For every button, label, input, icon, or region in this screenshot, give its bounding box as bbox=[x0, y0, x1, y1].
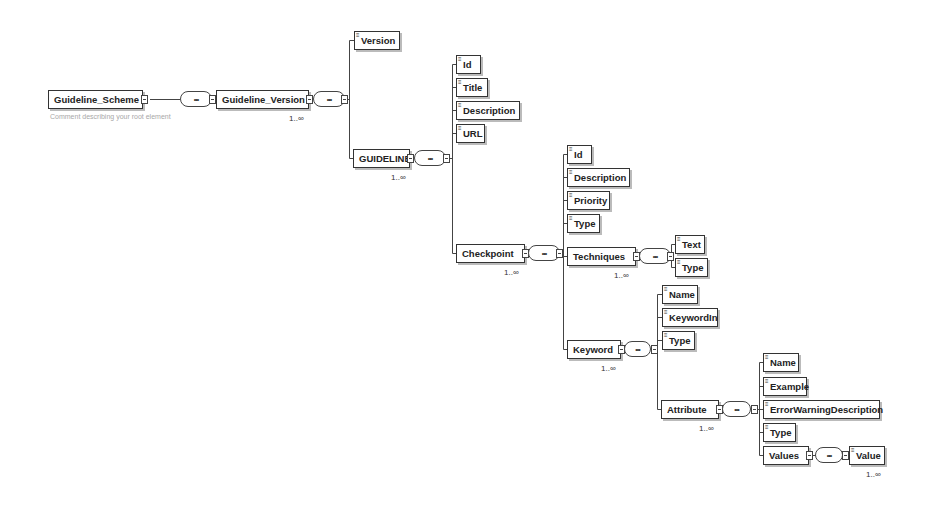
leaf-element-icon: ≡ bbox=[569, 169, 573, 175]
leaf-element-icon: ≡ bbox=[356, 32, 360, 38]
leaf-element-icon: ≡ bbox=[765, 424, 769, 430]
node-label: Title bbox=[463, 82, 482, 93]
leaf-element-icon: ≡ bbox=[458, 56, 462, 62]
node-label: Value bbox=[856, 450, 881, 461]
collapse-toggle-icon[interactable] bbox=[806, 451, 813, 460]
leaf-element-icon: ≡ bbox=[458, 79, 462, 85]
element-guideline-url[interactable]: ≡ URL bbox=[456, 124, 485, 143]
element-guideline[interactable]: GUIDELINE bbox=[353, 149, 410, 168]
element-keyword-keywordin[interactable]: ≡ KeywordIn bbox=[662, 308, 718, 327]
node-label: GUIDELINE bbox=[359, 153, 411, 164]
sequence-compositor-icon: ••• bbox=[722, 401, 751, 417]
node-label: Guideline_Version bbox=[222, 94, 305, 105]
cardinality-label: 1..∞ bbox=[699, 424, 714, 433]
element-checkpoint[interactable]: Checkpoint bbox=[456, 244, 525, 263]
collapse-toggle-icon[interactable] bbox=[667, 252, 674, 261]
leaf-element-icon: ≡ bbox=[664, 309, 668, 315]
leaf-element-icon: ≡ bbox=[765, 401, 769, 407]
node-label: Type bbox=[770, 427, 791, 438]
element-techniques[interactable]: Techniques bbox=[567, 247, 636, 266]
sequence-compositor-icon: ••• bbox=[624, 341, 651, 357]
element-guideline-title[interactable]: ≡ Title bbox=[456, 78, 488, 97]
node-label: Type bbox=[682, 262, 703, 273]
node-label: KeywordIn bbox=[669, 312, 718, 323]
sequence-compositor-icon: ••• bbox=[180, 91, 212, 107]
node-label: Values bbox=[769, 450, 799, 461]
node-label: Description bbox=[574, 172, 626, 183]
element-keyword[interactable]: Keyword bbox=[567, 340, 621, 359]
collapse-toggle-icon[interactable] bbox=[443, 154, 450, 163]
node-label: Keyword bbox=[573, 344, 613, 355]
element-value[interactable]: ≡ Value bbox=[849, 446, 885, 465]
node-label: Guideline_Scheme bbox=[54, 94, 139, 105]
element-attribute-type[interactable]: ≡ Type bbox=[763, 423, 796, 442]
element-version[interactable]: ≡ Version bbox=[354, 31, 400, 50]
element-values[interactable]: Values bbox=[763, 446, 809, 465]
node-label: Checkpoint bbox=[462, 248, 514, 259]
collapse-toggle-icon[interactable] bbox=[651, 345, 658, 354]
node-label: Text bbox=[682, 239, 701, 250]
element-guideline-id[interactable]: ≡ Id bbox=[456, 55, 481, 74]
leaf-element-icon: ≡ bbox=[664, 286, 668, 292]
leaf-element-icon: ≡ bbox=[569, 146, 573, 152]
leaf-element-icon: ≡ bbox=[569, 192, 573, 198]
element-attribute-example[interactable]: ≡ Example bbox=[763, 377, 807, 396]
element-checkpoint-id[interactable]: ≡ Id bbox=[567, 145, 592, 164]
collapse-toggle-icon[interactable] bbox=[306, 95, 313, 104]
element-keyword-name[interactable]: ≡ Name bbox=[662, 285, 698, 304]
node-label: Version bbox=[361, 35, 395, 46]
cardinality-label: 1..∞ bbox=[614, 271, 629, 280]
element-techniques-type[interactable]: ≡ Type bbox=[675, 258, 708, 277]
element-attribute-name[interactable]: ≡ Name bbox=[763, 353, 799, 372]
node-label: ErrorWarningDescription bbox=[770, 404, 883, 415]
leaf-element-icon: ≡ bbox=[569, 215, 573, 221]
element-techniques-text[interactable]: ≡ Text bbox=[675, 235, 705, 254]
collapse-toggle-icon[interactable] bbox=[407, 154, 414, 163]
element-guideline-version[interactable]: Guideline_Version bbox=[216, 90, 309, 109]
element-attribute-errorwarningdescription[interactable]: ≡ ErrorWarningDescription bbox=[763, 400, 880, 419]
node-label: Priority bbox=[574, 195, 607, 206]
collapse-toggle-icon[interactable] bbox=[556, 249, 563, 258]
node-label: Description bbox=[463, 105, 515, 116]
node-label: Name bbox=[669, 289, 695, 300]
leaf-element-icon: ≡ bbox=[677, 236, 681, 242]
cardinality-label: 1..∞ bbox=[289, 114, 304, 123]
leaf-element-icon: ≡ bbox=[458, 125, 462, 131]
leaf-element-icon: ≡ bbox=[677, 259, 681, 265]
cardinality-label: 1..∞ bbox=[391, 173, 406, 182]
node-label: URL bbox=[463, 128, 483, 139]
sequence-compositor-icon: ••• bbox=[414, 150, 446, 166]
collapse-toggle-icon[interactable] bbox=[209, 95, 216, 104]
element-guideline-description[interactable]: ≡ Description bbox=[456, 101, 520, 120]
leaf-element-icon: ≡ bbox=[851, 447, 855, 453]
node-label: Id bbox=[574, 149, 582, 160]
element-keyword-type[interactable]: ≡ Type bbox=[662, 331, 695, 350]
element-attribute[interactable]: Attribute bbox=[661, 400, 719, 419]
leaf-element-icon: ≡ bbox=[765, 378, 769, 384]
collapse-toggle-icon[interactable] bbox=[341, 95, 348, 104]
element-checkpoint-type[interactable]: ≡ Type bbox=[567, 214, 600, 233]
leaf-element-icon: ≡ bbox=[664, 332, 668, 338]
leaf-element-icon: ≡ bbox=[765, 354, 769, 360]
node-label: Type bbox=[669, 335, 690, 346]
node-label: Attribute bbox=[667, 404, 707, 415]
node-label: Name bbox=[770, 357, 796, 368]
leaf-element-icon: ≡ bbox=[458, 102, 462, 108]
collapse-toggle-icon[interactable] bbox=[141, 95, 148, 104]
element-checkpoint-priority[interactable]: ≡ Priority bbox=[567, 191, 610, 210]
node-label: Example bbox=[770, 381, 809, 392]
cardinality-label: 1..∞ bbox=[601, 364, 616, 373]
root-comment: Comment describing your root element bbox=[50, 113, 171, 120]
root-element-guideline-scheme[interactable]: Guideline_Scheme bbox=[48, 90, 143, 109]
sequence-compositor-icon: ••• bbox=[815, 447, 843, 463]
element-checkpoint-description[interactable]: ≡ Description bbox=[567, 168, 630, 187]
cardinality-label: 1..∞ bbox=[504, 268, 519, 277]
node-label: Type bbox=[574, 218, 595, 229]
node-label: Id bbox=[463, 59, 471, 70]
node-label: Techniques bbox=[573, 251, 625, 262]
collapse-toggle-icon[interactable] bbox=[751, 405, 758, 414]
collapse-toggle-icon[interactable] bbox=[842, 451, 849, 460]
cardinality-label: 1..∞ bbox=[866, 470, 881, 479]
